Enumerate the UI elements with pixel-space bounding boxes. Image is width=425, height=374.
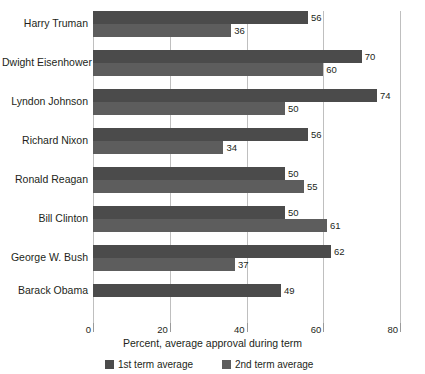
legend-label: 2nd term average <box>235 359 313 370</box>
tick-label-60: 60 <box>281 323 321 336</box>
category-label: Dwight Eisenhower <box>2 57 88 68</box>
legend-swatch-icon <box>222 360 231 369</box>
bar-value-label: 50 <box>288 206 299 219</box>
bar <box>93 219 327 232</box>
bar <box>93 167 285 180</box>
bar-value-label: 50 <box>288 167 299 180</box>
bar-value-label: 56 <box>311 128 322 141</box>
legend-item-2[interactable]: 2nd term average <box>222 358 313 371</box>
bar <box>93 89 377 102</box>
bar <box>93 63 323 76</box>
tick-mark-60 <box>323 323 324 332</box>
category-label: George W. Bush <box>2 252 88 263</box>
bar-value-label: 49 <box>284 284 295 297</box>
legend-swatch-icon <box>105 360 114 369</box>
category-label: Richard Nixon <box>2 135 88 146</box>
bar <box>93 24 231 37</box>
bar-chart: Harry TrumanDwight EisenhowerLyndon John… <box>0 0 425 374</box>
tick-label-20: 20 <box>128 323 168 336</box>
bar <box>93 11 308 24</box>
tick-label-80: 80 <box>358 323 398 336</box>
bar <box>93 258 235 271</box>
x-axis: 020406080 <box>93 323 400 337</box>
bar-value-label: 61 <box>330 219 341 232</box>
category-label: Lyndon Johnson <box>2 96 88 107</box>
category-label: Bill Clinton <box>2 213 88 224</box>
bar <box>93 180 304 193</box>
bar <box>93 102 285 115</box>
bar <box>93 141 223 154</box>
tick-label-40: 40 <box>205 323 245 336</box>
category-label: Barack Obama <box>2 285 88 296</box>
bar-value-label: 50 <box>288 102 299 115</box>
gridline-80 <box>400 11 401 323</box>
plot-area: 563670607450563450555061623749 <box>93 11 400 323</box>
bar-value-label: 74 <box>380 89 391 102</box>
bar-value-label: 36 <box>234 24 245 37</box>
bar <box>93 50 362 63</box>
legend-label: 1st term average <box>118 359 193 370</box>
x-axis-title: Percent, average approval during term <box>0 337 425 349</box>
tick-mark-40 <box>247 323 248 332</box>
category-label: Ronald Reagan <box>2 174 88 185</box>
tick-mark-80 <box>400 323 401 332</box>
bar <box>93 245 331 258</box>
bar-value-label: 55 <box>307 180 318 193</box>
tick-mark-0 <box>93 323 94 332</box>
bar-value-label: 56 <box>311 11 322 24</box>
bar-value-label: 37 <box>238 258 249 271</box>
bar <box>93 284 281 297</box>
category-axis-labels: Harry TrumanDwight EisenhowerLyndon John… <box>0 11 88 323</box>
bar-value-label: 70 <box>365 50 376 63</box>
bar-value-label: 62 <box>334 245 345 258</box>
bar <box>93 206 285 219</box>
category-label: Harry Truman <box>2 18 88 29</box>
bar <box>93 128 308 141</box>
legend-item-1[interactable]: 1st term average <box>105 358 193 371</box>
tick-label-0: 0 <box>51 323 91 336</box>
bar-value-label: 34 <box>226 141 237 154</box>
bar-value-label: 60 <box>326 63 337 76</box>
tick-mark-20 <box>170 323 171 332</box>
